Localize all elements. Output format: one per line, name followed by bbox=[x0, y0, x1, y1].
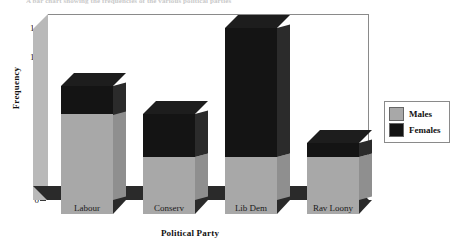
bar-front-face bbox=[225, 28, 277, 157]
bar-segment-males[interactable] bbox=[143, 157, 195, 200]
bar-side-face bbox=[277, 154, 290, 200]
bar-front-face bbox=[307, 143, 359, 157]
bar-side-face bbox=[277, 25, 290, 157]
bar-front-face bbox=[225, 157, 277, 200]
bar-segment-females[interactable] bbox=[61, 86, 113, 115]
bar-front-face bbox=[143, 157, 195, 200]
x-axis-title: Political Party bbox=[0, 228, 380, 238]
x-tick-label-lib-dem: Lib Dem bbox=[206, 203, 296, 213]
bar-top-face bbox=[61, 73, 126, 86]
figure-caption: A bar chart showing the frequencies of t… bbox=[26, 0, 346, 6]
plot-left-wall bbox=[33, 14, 48, 200]
bar-side-face bbox=[113, 111, 126, 200]
bar-series-container bbox=[47, 14, 369, 200]
bar-side-face bbox=[195, 154, 208, 200]
bar-segment-females[interactable] bbox=[143, 114, 195, 157]
bar-segment-males[interactable] bbox=[225, 157, 277, 200]
bar-side-face bbox=[195, 111, 208, 157]
bar-segment-males[interactable] bbox=[61, 114, 113, 200]
bar-segment-females[interactable] bbox=[225, 28, 277, 157]
x-axis: Labour Conserv Lib Dem Rav Loony bbox=[47, 203, 383, 217]
x-tick-label-conserv: Conserv bbox=[124, 203, 214, 213]
bar-front-face bbox=[61, 86, 113, 115]
y-tick-mark bbox=[40, 200, 46, 201]
bar-side-face bbox=[113, 82, 126, 114]
legend-item-females[interactable]: Females bbox=[389, 122, 445, 138]
bar-segment-females[interactable] bbox=[307, 143, 359, 157]
legend: Males Females bbox=[384, 101, 450, 143]
legend-item-males[interactable]: Males bbox=[389, 106, 445, 122]
bar-segment-males[interactable] bbox=[307, 157, 359, 200]
bar-front-face bbox=[307, 157, 359, 200]
chart-figure: A bar chart showing the frequencies of t… bbox=[0, 0, 455, 248]
legend-label: Females bbox=[409, 125, 441, 135]
bar-front-face bbox=[143, 114, 195, 157]
bar-top-face bbox=[307, 130, 372, 143]
legend-label: Males bbox=[409, 109, 432, 119]
x-tick-label-rav-loony: Rav Loony bbox=[288, 203, 378, 213]
bar-front-face bbox=[61, 114, 113, 200]
males-swatch-icon bbox=[389, 107, 404, 121]
x-tick-label-labour: Labour bbox=[42, 203, 132, 213]
females-swatch-icon bbox=[389, 123, 404, 137]
bar-side-face bbox=[359, 154, 372, 200]
